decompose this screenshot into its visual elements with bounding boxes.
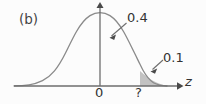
peak-value-label: 0.4 <box>127 11 148 24</box>
y-axis-arrowhead <box>97 2 104 8</box>
origin-tick-label: 0 <box>95 86 103 99</box>
tail-area-arrowhead <box>151 69 158 74</box>
normal-distribution-figure: (b) 0.4 0.1 0 ? z <box>0 0 206 104</box>
x-axis-arrowhead <box>177 82 184 89</box>
tail-area-label: 0.1 <box>163 51 184 64</box>
panel-label: (b) <box>19 13 38 27</box>
tail-area-leader-line <box>153 60 164 70</box>
unknown-tick-label: ? <box>135 86 142 99</box>
axis-variable-label: z <box>185 75 192 88</box>
